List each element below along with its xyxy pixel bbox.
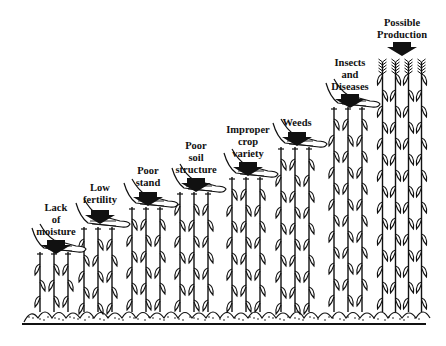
stage-label-improper-crop-variety: Improper crop variety xyxy=(208,124,288,160)
stage-label-weeds: Weeds xyxy=(257,117,337,129)
soil-ground xyxy=(22,312,430,324)
stage-label-insects-and-diseases: Insects and Diseases xyxy=(310,57,390,93)
stage-label-lack-of-moisture: Lack of moisture xyxy=(16,202,96,238)
stage-label-possible-production: Possible Production xyxy=(362,17,442,41)
down-arrow-icon xyxy=(387,42,417,56)
